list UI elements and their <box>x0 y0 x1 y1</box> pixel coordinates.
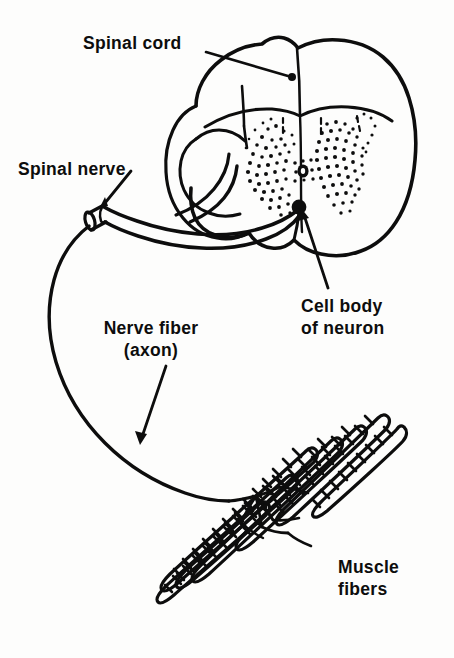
leader-nerve-fiber <box>135 366 166 445</box>
label-cell-body: Cell body of neuron <box>301 296 384 340</box>
axon <box>49 226 229 501</box>
gray-matter-stipple <box>245 113 377 217</box>
label-cell-body-line-2: of neuron <box>301 318 384 340</box>
label-muscle-fibers: Muscle fibers <box>338 557 399 601</box>
label-muscle-fibers-line-2: fibers <box>338 579 399 601</box>
label-muscle-fibers-line-1: Muscle <box>338 557 399 579</box>
cord-transverse-line <box>205 107 392 127</box>
muscle-fiber <box>312 426 406 517</box>
central-canal <box>297 164 308 177</box>
label-spinal-cord-line-1: Spinal cord <box>83 33 182 55</box>
label-spinal-cord: Spinal cord <box>83 33 182 55</box>
leader-spinal-cord <box>206 52 296 81</box>
label-spinal-nerve-line-1: Spinal nerve <box>18 159 126 181</box>
label-cell-body-line-1: Cell body <box>301 296 384 318</box>
label-spinal-nerve: Spinal nerve <box>18 159 126 181</box>
label-nerve-fiber-line-1: Nerve fiber <box>81 318 221 340</box>
spinal-cord-outline <box>191 37 416 255</box>
label-nerve-fiber-line-2: (axon) <box>81 340 221 362</box>
label-nerve-fiber: Nerve fiber (axon) <box>81 318 221 362</box>
figure-root: Spinal cord Spinal nerve Nerve fiber (ax… <box>0 0 454 658</box>
